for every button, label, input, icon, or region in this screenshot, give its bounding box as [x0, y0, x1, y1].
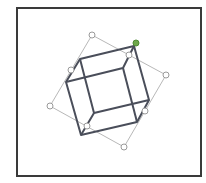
- handle-top-left[interactable]: [89, 32, 95, 38]
- handle-bottom-mid[interactable]: [84, 123, 90, 129]
- handle-bottom[interactable]: [121, 144, 127, 150]
- handle-right-mid[interactable]: [142, 108, 148, 114]
- handle-left[interactable]: [47, 103, 53, 109]
- handle-left-mid[interactable]: [68, 67, 74, 73]
- cube-edge-inner-bottom: [94, 100, 149, 113]
- handle-right[interactable]: [163, 72, 169, 78]
- cube-diagram: [0, 0, 206, 183]
- handle-top-mid[interactable]: [126, 52, 132, 58]
- resize-handles: [47, 32, 169, 150]
- cube-edge-back-right: [123, 68, 137, 122]
- rotation-handle[interactable]: [133, 40, 139, 46]
